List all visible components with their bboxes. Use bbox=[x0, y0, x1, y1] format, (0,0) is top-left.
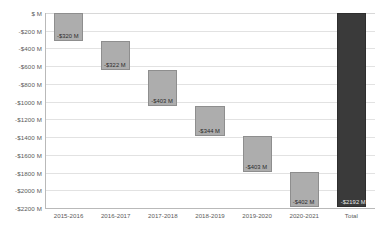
waterfall-chart: $ M-$200 M-$400 M-$600 M-$800 M-$1000 M-… bbox=[0, 0, 383, 238]
bar-value-label: -$344 M bbox=[198, 128, 220, 134]
gridline bbox=[45, 48, 375, 49]
gridline bbox=[45, 13, 375, 14]
y-axis-tick-label: -$1000 M bbox=[15, 98, 42, 105]
y-axis-tick-label: -$1400 M bbox=[15, 134, 42, 141]
y-axis-tick-label: -$800 M bbox=[19, 80, 42, 87]
gridline bbox=[45, 155, 375, 156]
bar-value-label: -$322 M bbox=[104, 62, 126, 68]
y-axis-tick-label: -$2000 M bbox=[15, 187, 42, 194]
bar-value-label: -$2192 M bbox=[341, 199, 366, 205]
x-axis-tick-label: 2015-2016 bbox=[45, 212, 92, 219]
waterfall-bar: -$403 M bbox=[243, 136, 272, 172]
gridline bbox=[45, 173, 375, 174]
y-axis-tick-label: $ M bbox=[31, 10, 42, 17]
y-axis-tick-label: -$200 M bbox=[19, 27, 42, 34]
gridline bbox=[45, 102, 375, 103]
gridline bbox=[45, 190, 375, 191]
y-axis-tick-label: -$400 M bbox=[19, 45, 42, 52]
y-axis-tick-label: -$600 M bbox=[19, 63, 42, 70]
waterfall-bar: -$403 M bbox=[148, 70, 177, 106]
y-axis-line bbox=[45, 13, 46, 209]
bar-value-label: -$320 M bbox=[57, 33, 79, 39]
x-axis-tick-label: 2016-2017 bbox=[92, 212, 139, 219]
bar-value-label: -$402 M bbox=[293, 199, 315, 205]
y-axis-tick-label: -$2200 M bbox=[15, 205, 42, 212]
x-axis-tick-label: 2019-2020 bbox=[234, 212, 281, 219]
x-axis-tick-label: 2017-2018 bbox=[139, 212, 186, 219]
plot-area: -$320 M-$322 M-$403 M-$344 M-$403 M-$402… bbox=[45, 13, 375, 208]
y-axis-tick-label: -$1600 M bbox=[15, 151, 42, 158]
bar-value-label: -$403 M bbox=[246, 164, 268, 170]
total-bar: -$2192 M bbox=[337, 13, 366, 207]
y-axis-tick-label: -$1800 M bbox=[15, 169, 42, 176]
waterfall-bar: -$322 M bbox=[101, 41, 130, 70]
x-axis-tick-label: 2018-2019 bbox=[186, 212, 233, 219]
x-axis-tick-label: Total bbox=[328, 212, 375, 219]
x-axis-tick-label: 2020-2021 bbox=[281, 212, 328, 219]
waterfall-bar: -$344 M bbox=[195, 106, 224, 136]
x-axis-line bbox=[45, 208, 375, 209]
waterfall-bar: -$402 M bbox=[290, 172, 319, 208]
gridline bbox=[45, 137, 375, 138]
y-axis-tick-label: -$1200 M bbox=[15, 116, 42, 123]
gridline bbox=[45, 31, 375, 32]
bar-value-label: -$403 M bbox=[151, 98, 173, 104]
waterfall-bar: -$320 M bbox=[54, 13, 83, 41]
gridline bbox=[45, 66, 375, 67]
gridline bbox=[45, 84, 375, 85]
